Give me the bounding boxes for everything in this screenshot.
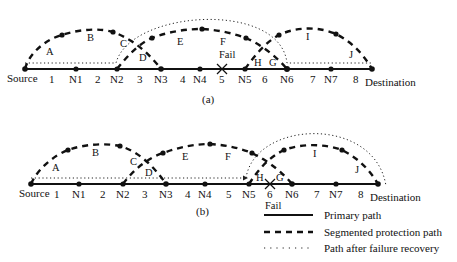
segment-label: H	[256, 172, 264, 183]
segment-label: H	[254, 57, 262, 68]
node-label: N5	[242, 188, 256, 200]
recovery-arrowhead-b	[243, 176, 248, 181]
legend: Primary path Segmented protection path P…	[264, 209, 442, 254]
node-label: N6	[280, 73, 294, 85]
node-n4-a	[197, 66, 202, 71]
legend-label: Segmented protection path	[324, 226, 442, 238]
node-label: N1	[69, 73, 82, 85]
node-label: N1	[72, 188, 85, 200]
node-n1-b	[76, 181, 81, 186]
node-label: Source	[19, 187, 50, 199]
segment-label: I	[306, 31, 310, 42]
node-label: N3	[159, 188, 173, 200]
legend-label: Primary path	[324, 209, 382, 221]
link-label: 4	[180, 73, 186, 85]
link-label: 6	[262, 73, 268, 85]
diagram-b: Source 1 N1 2 N2 3 N3 4 N4 5 N5 6 N6 7 N…	[19, 134, 421, 218]
segment-label: J	[349, 49, 353, 60]
arc-dot-a5	[243, 35, 248, 40]
node-label: N6	[285, 188, 299, 200]
arc-dot-b5	[249, 150, 254, 155]
node-n2-a	[114, 66, 119, 71]
link-label: 2	[100, 188, 106, 200]
node-source-a	[22, 66, 28, 72]
arc-dot-b6	[281, 147, 286, 152]
segment-label: C	[130, 156, 137, 167]
arc-dot-b2	[117, 143, 122, 148]
segment-label: F	[225, 151, 231, 162]
node-label: N5	[238, 73, 252, 85]
link-label: 4	[185, 188, 191, 200]
node-label: N7	[324, 73, 338, 85]
link-label: 6	[267, 188, 273, 200]
node-n6-a	[284, 66, 290, 72]
segment-label: D	[145, 167, 153, 178]
node-n5-a	[242, 66, 247, 71]
link-label: 7	[314, 188, 320, 200]
legend-item-protection: Segmented protection path	[264, 226, 442, 238]
node-n7-b	[333, 181, 338, 186]
node-n2-b	[120, 181, 125, 186]
segment-label: B	[92, 147, 99, 158]
arc-dot-b1	[65, 147, 70, 152]
node-n7-a	[328, 66, 333, 71]
segmented-protection-diagram: Source 1 N1 2 N2 3 N3 4 N4 5 N5 6 N6 7 N…	[0, 0, 457, 262]
node-label: N4	[193, 73, 207, 85]
node-label: Destination	[365, 76, 416, 88]
segment-label: F	[220, 36, 226, 47]
fail-label: Fail	[265, 200, 281, 211]
node-destination-a	[369, 66, 375, 72]
segment-label: C	[120, 38, 127, 49]
segment-label: D	[139, 52, 147, 63]
arc-dot-b7	[339, 147, 344, 152]
node-label: N2	[116, 188, 129, 200]
node-label: N2	[110, 73, 123, 85]
arc-dot-a2	[110, 29, 115, 34]
legend-item-primary: Primary path	[264, 209, 382, 221]
node-label: N4	[198, 188, 212, 200]
arc-dot-a4	[199, 26, 204, 31]
caption-a: (a)	[202, 93, 215, 106]
link-label: 5	[226, 188, 232, 200]
segment-label: E	[177, 36, 183, 47]
arc-dot-b4	[207, 141, 212, 146]
segment-label: G	[276, 172, 284, 183]
link-label: 1	[49, 73, 55, 85]
segment-label: J	[355, 164, 359, 175]
node-n4-b	[202, 181, 207, 186]
node-n3-a	[158, 66, 164, 72]
segment-label: A	[46, 46, 54, 57]
link-label: 1	[54, 188, 60, 200]
node-label: N3	[154, 73, 168, 85]
node-label: N7	[329, 188, 343, 200]
segment-label: E	[182, 151, 188, 162]
link-label: 8	[358, 188, 364, 200]
node-n5-b	[246, 181, 251, 186]
link-label: 3	[142, 188, 148, 200]
node-label: Destination	[370, 191, 421, 203]
segment-label: A	[52, 162, 60, 173]
arc-dot-a1	[59, 32, 64, 37]
node-destination-b	[375, 181, 381, 187]
arc-dot-a6	[276, 32, 281, 37]
recovery-path-b	[31, 134, 386, 186]
protection-segment-2-b	[123, 144, 292, 184]
legend-label: Path after failure recovery	[324, 242, 440, 254]
link-label: 2	[95, 73, 101, 85]
diagram-a: Source 1 N1 2 N2 3 N3 4 N4 5 N5 6 N6 7 N…	[7, 19, 416, 106]
node-n3-b	[163, 181, 169, 187]
link-label: 8	[353, 73, 359, 85]
arc-dot-a3	[149, 35, 154, 40]
node-source-b	[28, 181, 34, 187]
recovery-path-a	[25, 19, 372, 63]
segment-label: I	[313, 148, 317, 159]
node-n1-a	[73, 66, 78, 71]
fail-label: Fail	[219, 49, 235, 60]
node-n6-b	[289, 181, 295, 187]
link-label: 7	[310, 73, 316, 85]
caption-b: (b)	[196, 205, 209, 218]
segment-label: B	[87, 32, 94, 43]
node-label: Source	[7, 72, 38, 84]
segment-label: G	[269, 57, 277, 68]
arc-dot-b3	[160, 150, 165, 155]
